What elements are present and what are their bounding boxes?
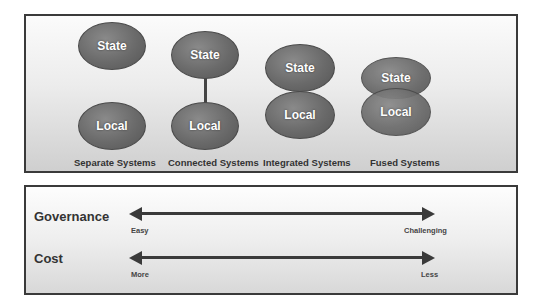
- local-label: Local: [96, 119, 127, 133]
- integrated-state-ellipse: State: [265, 44, 335, 92]
- scale-label-cost: Cost: [34, 251, 63, 266]
- connected-local-ellipse: Local: [171, 102, 239, 150]
- state-label: State: [381, 71, 410, 85]
- connected-state-ellipse: State: [171, 31, 239, 79]
- caption-integrated-systems: Integrated Systems: [263, 157, 351, 168]
- separate-state-ellipse: State: [78, 22, 146, 70]
- integrated-local-ellipse: Local: [265, 91, 335, 139]
- caption-fused-systems: Fused Systems: [370, 157, 440, 168]
- scale-label-governance: Governance: [34, 209, 109, 224]
- arrow-right-head-icon: [422, 207, 435, 221]
- fused-local-ellipse: Local: [361, 88, 431, 136]
- governance-left-end: Easy: [131, 226, 149, 235]
- cost-right-end: Less: [421, 270, 438, 279]
- cost-double-arrow: [129, 251, 435, 265]
- arrow-right-head-icon: [422, 251, 435, 265]
- governance-right-end: Challenging: [404, 226, 447, 235]
- local-label: Local: [284, 108, 315, 122]
- caption-separate-systems: Separate Systems: [74, 157, 156, 168]
- separate-local-ellipse: Local: [78, 102, 146, 150]
- state-label: State: [285, 61, 314, 75]
- caption-connected-systems: Connected Systems: [168, 157, 259, 168]
- tradeoff-scales-panel: [24, 185, 518, 295]
- state-label: State: [190, 48, 219, 62]
- state-label: State: [97, 39, 126, 53]
- local-label: Local: [380, 105, 411, 119]
- governance-double-arrow: [129, 207, 435, 221]
- cost-left-end: More: [131, 270, 149, 279]
- local-label: Local: [189, 119, 220, 133]
